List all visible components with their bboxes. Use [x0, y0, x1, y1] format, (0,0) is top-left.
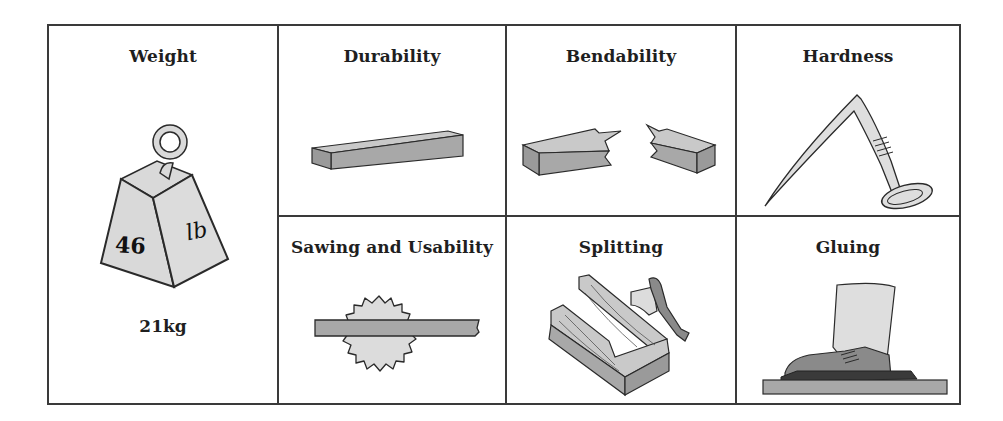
cell-title: Splitting — [507, 237, 735, 257]
wooden-plank-icon — [279, 121, 505, 201]
cell-hardness: Hardness — [737, 26, 959, 215]
cell-title: Durability — [279, 46, 505, 66]
weight-caption: 21kg — [49, 316, 277, 336]
weight-number: 46 — [114, 231, 146, 259]
cell-title: Gluing — [737, 237, 959, 257]
cell-title: Weight — [49, 46, 277, 66]
split-log-axe-icon — [507, 267, 735, 407]
cell-bendability: Bendability — [507, 26, 735, 215]
broken-plank-icon — [507, 121, 735, 201]
foot-pressing-board-icon — [737, 267, 959, 397]
cell-title: Bendability — [507, 46, 735, 66]
cell-durability: Durability — [279, 26, 505, 215]
cell-title: Sawing and Usability — [279, 237, 505, 257]
weight-icon: 46 lb — [49, 121, 277, 321]
saw-blade-plank-icon — [279, 272, 505, 392]
cell-splitting: Splitting — [507, 217, 735, 403]
bent-nail-icon — [737, 71, 959, 211]
cell-weight: Weight 46 lb 21kg — [49, 26, 277, 403]
cell-gluing: Gluing — [737, 217, 959, 403]
cell-sawing: Sawing and Usability — [279, 217, 505, 403]
cell-title: Hardness — [737, 46, 959, 66]
properties-grid: Weight 46 lb 21kg Durability Bendabili — [47, 24, 961, 405]
